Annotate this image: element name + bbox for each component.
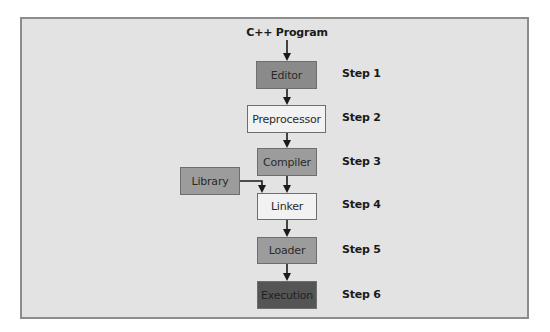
step-2-label: Step 2 [342,111,381,124]
editor-label: Editor [271,69,302,82]
library-label: Library [191,175,228,188]
execution-box: Execution [257,281,317,309]
step-5-label: Step 5 [342,243,381,256]
step-3-label: Step 3 [342,155,381,168]
loader-box: Loader [257,237,317,264]
step-1-label: Step 1 [342,67,381,80]
preprocessor-box: Preprocessor [247,105,326,133]
diagram-title: C++ Program [237,26,337,39]
linker-box: Linker [257,193,317,220]
step-4-label: Step 4 [342,198,381,211]
compiler-label: Compiler [263,156,311,169]
library-box: Library [180,167,240,195]
compiler-box: Compiler [257,148,317,176]
execution-label: Execution [261,289,313,302]
linker-label: Linker [271,200,303,213]
loader-label: Loader [269,244,305,257]
preprocessor-label: Preprocessor [252,113,321,126]
step-6-label: Step 6 [342,288,381,301]
editor-box: Editor [256,61,317,89]
